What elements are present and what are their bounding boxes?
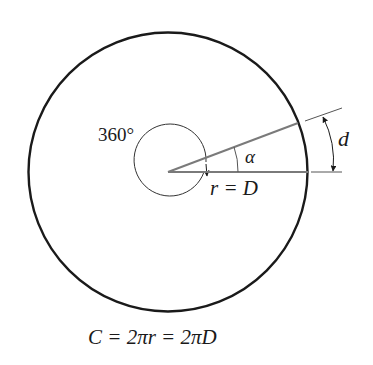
- full-angle-arrow: [206, 164, 207, 176]
- arc-length-arrow: [323, 117, 334, 171]
- alpha-label: α: [245, 147, 255, 166]
- full-angle-circle: [134, 124, 206, 196]
- circumference-formula: C = 2πr = 2πD: [88, 327, 217, 348]
- arc-length-label: d: [338, 128, 349, 150]
- alpha-arc: [234, 147, 238, 172]
- full-angle-label: 360°: [98, 125, 134, 144]
- diagram-graphic: [0, 0, 373, 365]
- angle-ray: [168, 123, 298, 172]
- circle-diagram: 360° α r = D d C = 2πr = 2πD: [0, 0, 373, 365]
- radius-label: r = D: [210, 178, 258, 199]
